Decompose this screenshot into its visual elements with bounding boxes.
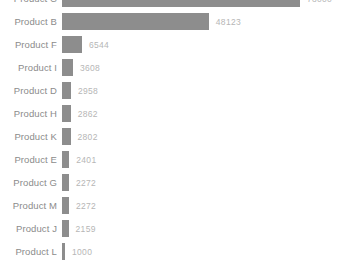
bar-row: Product H2862 xyxy=(0,102,351,125)
category-label: Product B xyxy=(0,16,57,27)
bar-row: Product K2802 xyxy=(0,125,351,148)
bar-area: 2272 xyxy=(57,194,351,217)
value-label: 2401 xyxy=(76,155,96,165)
bar-row: Product I3608 xyxy=(0,56,351,79)
bar[interactable] xyxy=(62,105,71,122)
bar-row: Product G2272 xyxy=(0,171,351,194)
bar-row: Product M2272 xyxy=(0,194,351,217)
category-label: Product L xyxy=(0,246,57,257)
bar-row: Product E2401 xyxy=(0,148,351,171)
bar[interactable] xyxy=(62,220,69,237)
value-label: 3608 xyxy=(80,63,100,73)
bar-area: 2401 xyxy=(57,148,351,171)
bar-area: 78000 xyxy=(57,0,351,10)
category-label: Product J xyxy=(0,223,57,234)
value-label: 2272 xyxy=(76,201,96,211)
bar[interactable] xyxy=(62,174,69,191)
horizontal-bar-chart: Product C78000Product B48123Product F654… xyxy=(0,0,351,275)
value-label: 1000 xyxy=(72,247,92,257)
value-label: 2802 xyxy=(78,132,98,142)
bar[interactable] xyxy=(62,151,69,168)
bar-row: Product D2958 xyxy=(0,79,351,102)
bar-area: 48123 xyxy=(57,10,351,33)
category-label: Product D xyxy=(0,85,57,96)
bar[interactable] xyxy=(62,0,300,7)
bar-area: 2802 xyxy=(57,125,351,148)
category-label: Product E xyxy=(0,154,57,165)
bar-area: 1000 xyxy=(57,240,351,263)
value-label: 2958 xyxy=(78,86,98,96)
bar-area: 2862 xyxy=(57,102,351,125)
bar[interactable] xyxy=(62,59,73,76)
bar[interactable] xyxy=(62,128,71,145)
bar-rows-container: Product C78000Product B48123Product F654… xyxy=(0,0,351,263)
bar[interactable] xyxy=(62,197,69,214)
value-label: 2272 xyxy=(76,178,96,188)
bar-area: 6544 xyxy=(57,33,351,56)
bar[interactable] xyxy=(62,82,71,99)
bar-area: 2159 xyxy=(57,217,351,240)
bar[interactable] xyxy=(62,36,82,53)
bar[interactable] xyxy=(62,13,209,30)
value-label: 2862 xyxy=(78,109,98,119)
bar-row: Product B48123 xyxy=(0,10,351,33)
category-label: Product G xyxy=(0,177,57,188)
bar-area: 2272 xyxy=(57,171,351,194)
category-label: Product K xyxy=(0,131,57,142)
category-label: Product H xyxy=(0,108,57,119)
value-label: 78000 xyxy=(307,0,332,4)
bar-area: 3608 xyxy=(57,56,351,79)
value-label: 2159 xyxy=(76,224,96,234)
value-label: 6544 xyxy=(89,40,109,50)
bar-area: 2958 xyxy=(57,79,351,102)
bar-row: Product F6544 xyxy=(0,33,351,56)
category-label: Product F xyxy=(0,39,57,50)
bar-row: Product J2159 xyxy=(0,217,351,240)
category-label: Product I xyxy=(0,62,57,73)
value-label: 48123 xyxy=(216,17,241,27)
category-label: Product M xyxy=(0,200,57,211)
category-label: Product C xyxy=(0,0,57,4)
bar[interactable] xyxy=(62,243,65,260)
bar-row: Product L1000 xyxy=(0,240,351,263)
bar-row: Product C78000 xyxy=(0,0,351,10)
